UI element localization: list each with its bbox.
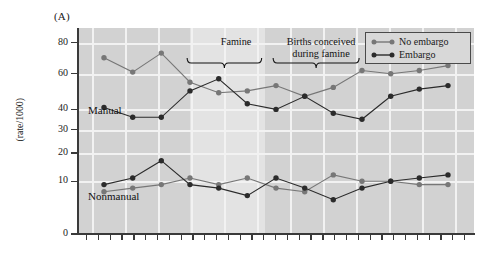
legend-label-embargo: Embargo xyxy=(399,49,435,60)
bracket-births-conceived xyxy=(273,58,359,68)
figure-panel-a: (A) Mild mental retardation (rate/1000) … xyxy=(0,0,487,259)
legend-marker-embargo xyxy=(370,50,396,60)
bracket-famine xyxy=(187,58,262,68)
legend-item-no-embargo: No embargo xyxy=(370,35,466,48)
legend: No embargo Embargo xyxy=(365,32,471,64)
legend-label-no-embargo: No embargo xyxy=(399,36,449,47)
legend-marker-no-embargo xyxy=(370,37,396,47)
legend-item-embargo: Embargo xyxy=(370,48,466,61)
